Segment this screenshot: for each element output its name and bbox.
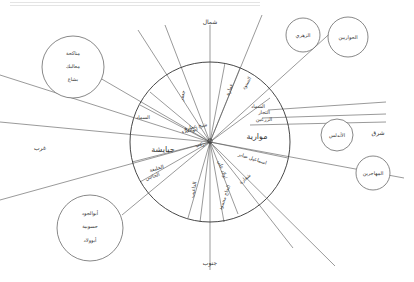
tribal-wheel-diagram: مناكحة معالبك بشاع الزهري الحواريين الأن… (0, 0, 414, 282)
outer-circle-hawariyyin: الحواريين (328, 17, 368, 57)
svg-text:زكي: زكي (196, 141, 206, 148)
svg-text:الحاجي: الحاجي (144, 171, 160, 183)
direction-north: شمال (203, 18, 218, 25)
svg-text:أبوالجود: أبوالجود (82, 210, 99, 217)
svg-text:التجار: التجار (257, 109, 270, 116)
svg-text:عمارة: عمارة (224, 82, 235, 96)
direction-west: غرب (34, 144, 46, 152)
svg-text:الزرعين: الزرعين (256, 116, 272, 123)
direction-south: جنوب (203, 259, 218, 267)
outer-circle-bottom-left: أبوالجود حسوبية أبوولاد (57, 195, 123, 261)
outer-circle-zuhri: الزهري (286, 18, 320, 52)
direction-east: شرق (372, 129, 385, 137)
svg-text:مناكحة: مناكحة (66, 50, 80, 56)
svg-text:شفارة: شفارة (238, 172, 253, 186)
svg-text:السنود: السنود (240, 76, 253, 91)
svg-text:معالبك: معالبك (66, 63, 80, 69)
svg-text:الحواريين: الحواريين (338, 34, 357, 41)
outer-circle-muhajirin: المهاجرين (356, 156, 390, 190)
svg-text:المهاجرين: المهاجرين (363, 170, 384, 177)
svg-text:الحاج محمود: الحاج محمود (217, 184, 233, 211)
svg-text:الأندلس: الأندلس (329, 132, 345, 139)
svg-text:بشاع: بشاع (68, 76, 78, 83)
outer-circle-andalus: الأندلس (321, 119, 353, 151)
svg-text:الزهري: الزهري (296, 32, 311, 39)
svg-text:جعفر: جعفر (178, 90, 187, 103)
svg-text:اولاد علي: اولاد علي (216, 159, 229, 180)
svg-text:أبوولاد: أبوولاد (84, 237, 97, 244)
sector-label-west: جبايشة (151, 145, 175, 154)
outer-circle-top-left: مناكحة معالبك بشاع (42, 36, 104, 98)
svg-text:السماد: السماد (136, 114, 150, 120)
svg-text:حسوبية: حسوبية (82, 223, 98, 230)
sector-label-east: موارية (246, 132, 267, 141)
